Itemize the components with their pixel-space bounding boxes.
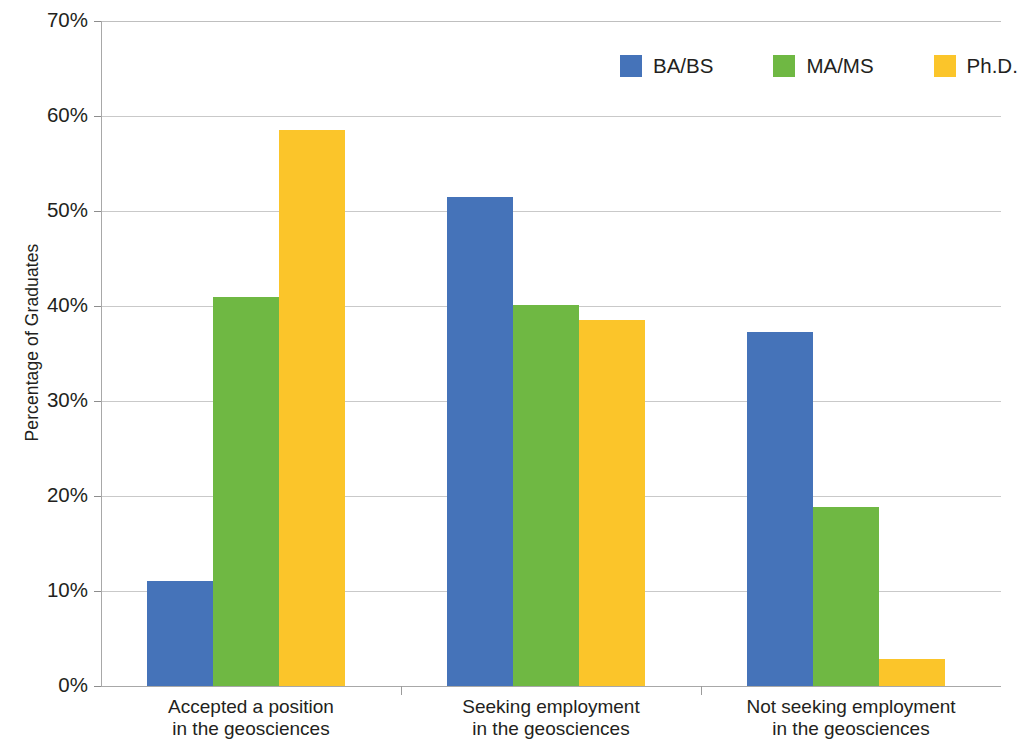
x-axis-category-label-line: in the geosciences [401, 718, 701, 740]
y-tick-label: 0% [0, 675, 88, 696]
gridline [101, 116, 1001, 117]
bar-ph-d-group-3 [879, 659, 945, 686]
bar-ba-bs-group-2 [447, 197, 513, 686]
bar-ph-d-group-2 [579, 320, 645, 686]
x-axis-category-label-line: in the geosciences [701, 718, 1001, 740]
y-tick-mark [94, 116, 101, 117]
bar-ph-d-group-1 [279, 130, 345, 686]
x-axis-category-label-line: Not seeking employment [701, 696, 1001, 718]
legend-item[interactable]: BA/BS [620, 55, 713, 77]
legend-swatch-icon [934, 55, 956, 77]
category-separator [701, 686, 702, 695]
y-tick-label: 60% [0, 105, 88, 126]
y-tick-mark [94, 401, 101, 402]
gridline [101, 21, 1001, 22]
x-axis-line [101, 686, 1001, 687]
legend-label: MA/MS [806, 56, 873, 77]
y-tick-mark [94, 591, 101, 592]
y-tick-label: 10% [0, 580, 88, 601]
y-axis-title: Percentage of Graduates [22, 193, 43, 493]
legend-item[interactable]: Ph.D. [934, 55, 1018, 77]
y-tick-label: 20% [0, 485, 88, 506]
legend-swatch-icon [773, 55, 795, 77]
y-tick-label: 40% [0, 295, 88, 316]
legend-swatch-icon [620, 55, 642, 77]
bar-ba-bs-group-1 [147, 581, 213, 686]
x-axis-category-label-line: Accepted a position [101, 696, 401, 718]
x-axis-category-label: Seeking employmentin the geosciences [401, 696, 701, 740]
y-tick-mark [94, 211, 101, 212]
bar-ma-ms-group-1 [213, 297, 279, 686]
x-axis-category-label-line: in the geosciences [101, 718, 401, 740]
y-tick-label: 30% [0, 390, 88, 411]
x-axis-category-label: Not seeking employmentin the geosciences [701, 696, 1001, 740]
y-axis-line [101, 21, 102, 687]
legend-label: BA/BS [653, 56, 713, 77]
legend: BA/BSMA/MSPh.D. [620, 55, 1018, 77]
legend-label: Ph.D. [967, 56, 1018, 77]
legend-item[interactable]: MA/MS [773, 55, 873, 77]
x-axis-category-label: Accepted a positionin the geosciences [101, 696, 401, 740]
gridline [101, 211, 1001, 212]
y-tick-label: 50% [0, 200, 88, 221]
x-axis-category-label-line: Seeking employment [401, 696, 701, 718]
plot-area [101, 21, 1001, 686]
y-tick-mark [94, 496, 101, 497]
bar-ma-ms-group-3 [813, 507, 879, 686]
category-separator [401, 686, 402, 695]
y-tick-label: 70% [0, 10, 88, 31]
bar-ba-bs-group-3 [747, 332, 813, 686]
y-tick-mark [94, 686, 101, 687]
bar-ma-ms-group-2 [513, 305, 579, 686]
y-tick-mark [94, 306, 101, 307]
y-tick-mark [94, 21, 101, 22]
